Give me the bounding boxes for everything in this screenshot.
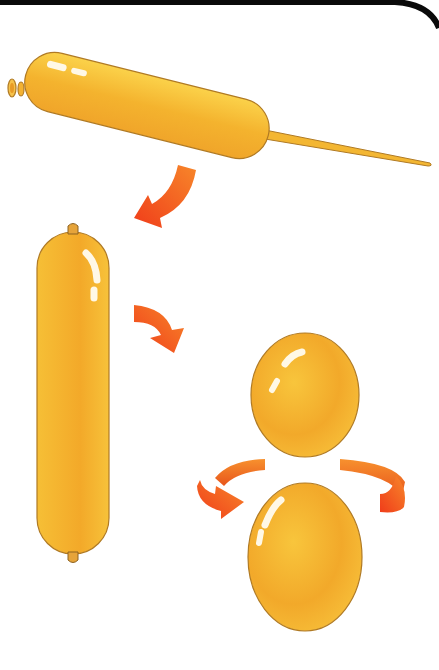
long-balloon-inflated [8, 46, 431, 166]
arrow-step-1-icon [134, 165, 196, 228]
arrow-step-2-icon [134, 305, 184, 353]
long-balloon-vertical [37, 224, 109, 563]
balloon-illustration [0, 0, 439, 670]
twisted-balloon-bubbles [197, 333, 405, 631]
frame-border [0, 2, 439, 28]
